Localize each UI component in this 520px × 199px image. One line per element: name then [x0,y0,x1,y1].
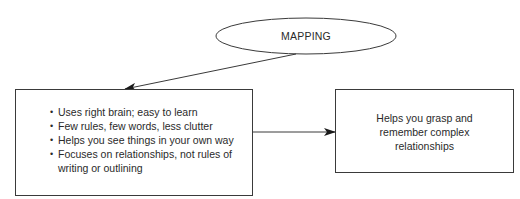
arrow-mapping-to-characteristics [125,54,296,89]
bullet-icon: • [50,147,53,161]
list-item: •Uses right brain; easy to learn [50,105,234,119]
characteristics-list: •Uses right brain; easy to learn •Few ru… [50,105,234,175]
bullet-icon: • [50,133,53,147]
list-item-text: Helps you see things in your own way [58,134,234,146]
mapping-node-label: MAPPING [216,18,396,54]
list-item-text: Few rules, few words, less clutter [58,120,213,132]
list-item-text: Focuses on relationships, not rules of w… [58,148,232,174]
bullet-icon: • [50,119,53,133]
outcome-text: Helps you grasp and remember complex rel… [336,111,513,153]
list-item: •Few rules, few words, less clutter [50,119,234,133]
list-item: •Focuses on relationships, not rules of … [50,147,234,175]
outcome-box: Helps you grasp and remember complex rel… [335,89,514,173]
bullet-icon: • [50,105,53,119]
characteristics-box: •Uses right brain; easy to learn •Few ru… [15,89,253,196]
list-item: •Helps you see things in your own way [50,133,234,147]
list-item-text: Uses right brain; easy to learn [58,106,197,118]
